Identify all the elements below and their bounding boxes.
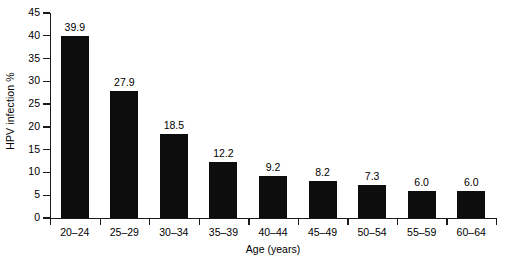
x-axis-title: Age (years) bbox=[50, 243, 496, 255]
x-axis-tick-mark bbox=[397, 218, 398, 225]
bar bbox=[160, 134, 188, 218]
bar bbox=[259, 176, 287, 218]
y-axis-tick-mark bbox=[43, 172, 50, 173]
y-axis-tick-label: 15 bbox=[28, 144, 40, 155]
x-axis-category-label: 40–44 bbox=[246, 227, 300, 238]
y-axis-tick-label: 20 bbox=[28, 121, 40, 132]
bar-value-label: 8.2 bbox=[298, 167, 348, 178]
x-axis-category-label: 55–59 bbox=[395, 227, 449, 238]
y-axis-tick-mark bbox=[43, 12, 50, 13]
y-axis-tick-mark bbox=[43, 81, 50, 82]
y-axis-title-text: HPV infection % bbox=[4, 72, 16, 149]
bar bbox=[408, 191, 436, 218]
bar-value-label: 6.0 bbox=[397, 177, 447, 188]
bar-value-label: 27.9 bbox=[99, 77, 149, 88]
x-axis-category-label: 20–24 bbox=[48, 227, 102, 238]
bar-value-label: 12.2 bbox=[198, 148, 248, 159]
y-axis-tick-label: 35 bbox=[28, 53, 40, 64]
bar bbox=[309, 181, 337, 218]
y-axis-tick-mark bbox=[43, 103, 50, 104]
x-axis-tick-mark bbox=[248, 218, 249, 225]
y-axis-tick-label: 0 bbox=[34, 212, 40, 223]
y-axis-tick-label: 30 bbox=[28, 75, 40, 86]
y-axis-tick-label: 5 bbox=[34, 189, 40, 200]
y-axis-tick-label: 40 bbox=[28, 30, 40, 41]
x-axis-category-label: 30–34 bbox=[147, 227, 201, 238]
bar bbox=[457, 191, 485, 218]
y-axis-tick-mark bbox=[43, 126, 50, 127]
y-axis-tick-mark bbox=[43, 195, 50, 196]
bar-chart: HPV infection % 051015202530354045 39.92… bbox=[0, 0, 520, 265]
y-axis-tick-mark bbox=[43, 149, 50, 150]
bar-value-label: 9.2 bbox=[248, 162, 298, 173]
y-axis-tick-mark bbox=[43, 58, 50, 59]
x-axis-tick-mark bbox=[199, 218, 200, 225]
bar-value-label: 7.3 bbox=[347, 171, 397, 182]
x-axis-category-label: 35–39 bbox=[196, 227, 250, 238]
x-axis-category-label: 60–64 bbox=[444, 227, 498, 238]
x-axis-tick-mark bbox=[149, 218, 150, 225]
x-axis-tick-mark bbox=[50, 218, 51, 225]
y-axis-tick-label: 45 bbox=[28, 7, 40, 18]
bar-value-label: 6.0 bbox=[446, 177, 496, 188]
x-axis-tick-mark bbox=[347, 218, 348, 225]
x-axis-category-label: 25–29 bbox=[97, 227, 151, 238]
y-axis-title: HPV infection % bbox=[0, 0, 20, 222]
x-axis-tick-mark bbox=[298, 218, 299, 225]
x-axis-category-label: 50–54 bbox=[345, 227, 399, 238]
y-axis-tick-mark bbox=[43, 217, 50, 218]
x-axis-tick-mark bbox=[100, 218, 101, 225]
x-axis-tick-mark bbox=[446, 218, 447, 225]
x-axis-category-label: 45–49 bbox=[296, 227, 350, 238]
bar bbox=[358, 185, 386, 218]
bar bbox=[110, 91, 138, 218]
bar-value-label: 39.9 bbox=[50, 22, 100, 33]
y-axis-line bbox=[50, 13, 51, 219]
y-axis-tick-label: 10 bbox=[28, 166, 40, 177]
bar bbox=[209, 162, 237, 218]
y-axis-tick-label: 25 bbox=[28, 98, 40, 109]
bar bbox=[61, 36, 89, 218]
bar-value-label: 18.5 bbox=[149, 120, 199, 131]
x-axis-tick-mark bbox=[496, 218, 497, 225]
y-axis-tick-mark bbox=[43, 35, 50, 36]
